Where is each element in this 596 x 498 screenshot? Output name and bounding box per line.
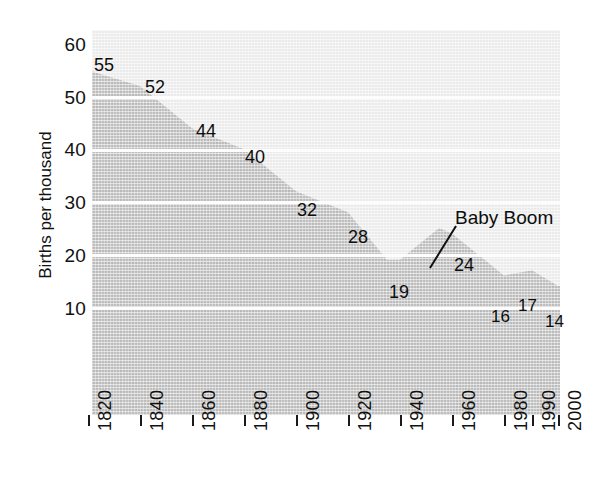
x-tick-1820 bbox=[88, 415, 90, 426]
x-tick-1980 bbox=[504, 415, 506, 426]
births-per-thousand-area-chart: Births per thousand 60 50 40 30 20 10 55… bbox=[0, 0, 596, 498]
x-tick-1880 bbox=[244, 415, 246, 426]
x-tick-1960 bbox=[452, 415, 454, 426]
x-tick-label-1880: 1880 bbox=[252, 390, 270, 431]
x-tick-label-1990: 1990 bbox=[540, 390, 558, 431]
x-tick-1860 bbox=[192, 415, 194, 426]
x-tick-label-1940: 1940 bbox=[408, 390, 426, 431]
x-tick-1990 bbox=[532, 415, 534, 426]
x-tick-1900 bbox=[296, 415, 298, 426]
x-tick-label-1840: 1840 bbox=[148, 390, 166, 431]
x-tick-1940 bbox=[400, 415, 402, 426]
x-tick-label-1860: 1860 bbox=[200, 390, 218, 431]
x-tick-label-1900: 1900 bbox=[304, 390, 322, 431]
x-tick-label-2000: 2000 bbox=[566, 390, 584, 431]
x-tick-label-1820: 1820 bbox=[96, 390, 114, 431]
x-tick-label-1980: 1980 bbox=[512, 390, 530, 431]
x-axis: 1820 1840 1860 1880 1900 1920 1940 1960 … bbox=[0, 415, 596, 498]
x-tick-1840 bbox=[140, 415, 142, 426]
x-tick-label-1960: 1960 bbox=[460, 390, 478, 431]
x-tick-1920 bbox=[348, 415, 350, 426]
x-tick-label-1920: 1920 bbox=[356, 390, 374, 431]
